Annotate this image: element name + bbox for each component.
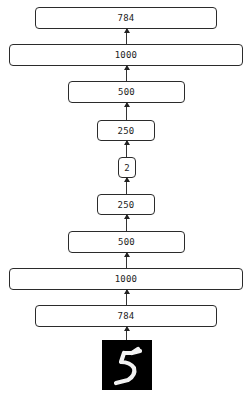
layer-box-encoder-500: 500 (68, 231, 185, 253)
arrow-up-icon (126, 29, 127, 44)
layer-box-code-2: 2 (118, 157, 136, 178)
arrow-up-icon (126, 66, 127, 81)
layer-box-decoder-1000: 1000 (9, 44, 243, 66)
layer-label: 2 (124, 163, 130, 173)
arrow-up-icon (126, 141, 127, 157)
layer-box-encoder-784: 784 (35, 305, 217, 327)
layer-label: 500 (118, 87, 135, 97)
layer-label: 500 (118, 237, 135, 247)
arrow-up-icon (126, 253, 127, 268)
layer-label: 250 (118, 200, 135, 210)
arrow-up-icon (126, 178, 127, 194)
layer-label: 784 (118, 13, 135, 23)
layer-box-decoder-500: 500 (68, 81, 185, 103)
arrow-up-icon (126, 290, 127, 305)
arrow-up-icon (126, 103, 127, 120)
arrow-up-icon (126, 215, 127, 231)
arrow-up-icon (126, 327, 127, 340)
layer-box-encoder-250: 250 (97, 194, 155, 215)
layer-box-encoder-1000: 1000 (9, 268, 243, 290)
layer-box-decoder-784: 784 (35, 7, 217, 29)
layer-label: 1000 (115, 274, 137, 284)
input-digit-image (102, 340, 152, 390)
layer-box-decoder-250: 250 (97, 120, 155, 141)
layer-label: 784 (118, 311, 135, 321)
digit-five-icon (102, 340, 152, 390)
layer-label: 250 (118, 126, 135, 136)
layer-label: 1000 (115, 50, 137, 60)
